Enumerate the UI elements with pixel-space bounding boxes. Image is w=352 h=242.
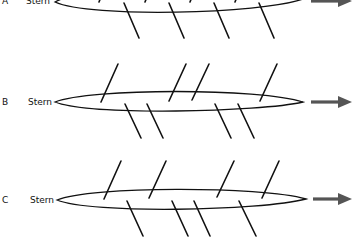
oar-upper — [169, 64, 186, 101]
oar-upper — [101, 64, 118, 102]
hull — [55, 92, 303, 112]
oar-upper — [262, 161, 279, 198]
oar-lower — [124, 3, 139, 38]
stern-label: Stern — [28, 97, 52, 107]
oar-upper — [190, 0, 192, 2]
row-c: C Stern — [2, 161, 352, 236]
oar-lower — [259, 3, 274, 38]
oar-lower — [147, 104, 163, 138]
oar-lower — [127, 201, 143, 236]
row-letter: B — [2, 97, 8, 107]
hull — [55, 0, 303, 12]
oar-lower — [214, 3, 229, 38]
oar-arrangement-diagram: A Stern B Stern — [0, 0, 352, 242]
oar-lower — [125, 104, 141, 138]
stern-label: Stern — [30, 195, 54, 205]
oar-upper — [99, 0, 101, 2]
row-letter: C — [2, 195, 8, 205]
row-letter: A — [2, 0, 9, 6]
stern-label: Stern — [26, 0, 50, 6]
direction-arrow — [311, 0, 352, 7]
oar-upper — [149, 161, 166, 198]
oar-upper — [145, 0, 147, 2]
oar-lower — [194, 201, 210, 236]
oar-upper — [192, 64, 209, 100]
oar-upper — [217, 161, 234, 197]
row-b: B Stern — [2, 64, 352, 138]
oar-lower — [172, 201, 188, 236]
hull — [57, 189, 306, 209]
row-a: A Stern — [2, 0, 352, 38]
direction-arrow — [311, 96, 352, 108]
oar-upper — [104, 161, 121, 199]
oar-upper — [235, 0, 237, 2]
direction-arrow — [313, 193, 352, 205]
oar-lower — [169, 3, 184, 38]
